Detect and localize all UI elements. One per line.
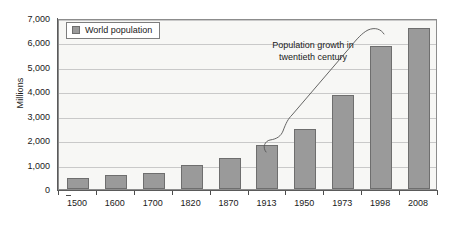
- world-population-bar-chart: Millions 01,0002,0003,0004,0005,0006,000…: [0, 0, 456, 234]
- bar: [408, 28, 430, 189]
- bar: [67, 178, 89, 189]
- x-tick-label: 1998: [361, 198, 399, 209]
- y-tick-label: 7,000: [14, 14, 50, 24]
- bar: [256, 145, 278, 189]
- y-tick-label: 2,000: [14, 136, 50, 146]
- x-tick-label: 1913: [248, 198, 286, 209]
- x-tick-mark: [58, 191, 59, 195]
- bar: [219, 158, 241, 189]
- x-tick-mark: [399, 191, 400, 195]
- x-tick-mark: [285, 191, 286, 195]
- x-tick-mark: [96, 191, 97, 195]
- y-tick-label: 1,000: [14, 161, 50, 171]
- x-tick-label: 2008: [399, 198, 437, 209]
- annotation-line-2: twentieth century: [243, 51, 383, 63]
- y-axis-tick-labels: 01,0002,0003,0004,0005,0006,0007,000: [14, 14, 50, 194]
- x-tick-label: 1700: [134, 198, 172, 209]
- bar: [332, 95, 354, 189]
- y-tick-label: 3,000: [14, 112, 50, 122]
- x-tick-mark: [323, 191, 324, 195]
- x-tick-mark: [210, 191, 211, 195]
- y-tick-label: 5,000: [14, 63, 50, 73]
- x-tick-label: 1500: [58, 198, 96, 209]
- x-axis-tick-marks: [0, 191, 456, 196]
- bar: [105, 175, 127, 189]
- bar: [143, 173, 165, 189]
- bar: [294, 129, 316, 189]
- y-tick-label: 4,000: [14, 87, 50, 97]
- bar: [370, 46, 392, 189]
- x-axis-tick-labels: 1500160017001820187019131950197319982008: [0, 198, 456, 212]
- x-tick-label: 1600: [96, 198, 134, 209]
- x-tick-label: 1870: [210, 198, 248, 209]
- annotation-line-1: Population growth in: [243, 39, 383, 51]
- legend: World population: [66, 22, 160, 39]
- y-tick-label: 6,000: [14, 38, 50, 48]
- x-tick-label: 1973: [323, 198, 361, 209]
- x-tick-label: 1950: [285, 198, 323, 209]
- x-tick-mark: [437, 191, 438, 195]
- x-tick-label: 1820: [172, 198, 210, 209]
- x-tick-mark: [172, 191, 173, 195]
- x-tick-mark: [361, 191, 362, 195]
- population-growth-annotation: Population growth in twentieth century: [243, 39, 383, 63]
- square-swatch-icon: [72, 26, 80, 34]
- x-tick-mark: [248, 191, 249, 195]
- legend-label: World population: [85, 25, 152, 35]
- x-tick-mark: [134, 191, 135, 195]
- bar: [181, 165, 203, 189]
